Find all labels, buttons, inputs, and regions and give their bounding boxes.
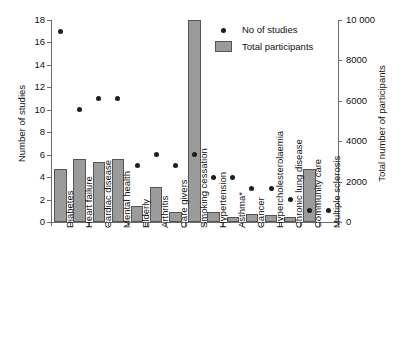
- data-point: [211, 175, 216, 180]
- data-point: [230, 175, 235, 180]
- x-axis-tick-label: Cancer: [256, 197, 266, 228]
- y-axis-right-tick-label: 2000: [346, 177, 367, 187]
- data-point: [135, 163, 140, 168]
- y-axis-right-tick: [338, 101, 342, 102]
- legend-label: Total participants: [242, 41, 313, 52]
- y-axis-right-tick-label: 4000: [346, 136, 367, 146]
- y-axis-right-tick-label: 8000: [346, 55, 367, 65]
- y-axis-left-tick: [47, 155, 51, 156]
- chart-figure: Number of studies Total number of partic…: [0, 0, 402, 351]
- y-axis-right-tick-label: 6000: [346, 96, 367, 106]
- data-point: [58, 29, 63, 34]
- x-axis-tick-label: Elderly: [141, 199, 151, 228]
- x-axis-tick-label: Hypercholesterolaemia: [275, 131, 285, 228]
- y-axis-left-tick-label: 8: [40, 127, 45, 137]
- y-axis-left-tick-label: 16: [34, 37, 45, 47]
- y-axis-left-tick: [47, 177, 51, 178]
- y-axis-right-tick: [338, 20, 342, 21]
- x-axis-tick-label: Hypertension: [218, 172, 228, 228]
- y-axis-left-tick: [47, 110, 51, 111]
- legend-label: No of studies: [242, 24, 297, 35]
- y-axis-left-tick-label: 4: [40, 172, 45, 182]
- y-axis-right-tick: [338, 60, 342, 61]
- legend-dot-icon: [221, 28, 226, 33]
- x-axis-tick-label: Cardiac disease: [103, 160, 113, 228]
- x-axis-tick-label: Smoking cessation: [199, 148, 209, 228]
- data-point: [154, 152, 159, 157]
- data-point: [249, 186, 254, 191]
- y-axis-right-tick-label: 10 000: [346, 15, 375, 25]
- y-axis-left-tick: [47, 42, 51, 43]
- x-axis-tick-label: Care givers: [179, 179, 189, 228]
- y-axis-left-tick: [47, 200, 51, 201]
- x-axis-tick-label: Arthritis: [160, 196, 170, 228]
- x-axis-tick: [51, 222, 52, 226]
- data-point: [288, 197, 293, 202]
- y-axis-left-tick: [47, 20, 51, 21]
- x-axis-tick-label: Diabetes: [65, 191, 75, 229]
- x-axis-tick-label: Heart failure: [84, 176, 94, 228]
- data-point: [115, 96, 120, 101]
- y-axis-left-tick-label: 0: [40, 217, 45, 227]
- y-axis-right-tick-label: 0: [346, 217, 351, 227]
- y-axis-left-tick-label: 18: [34, 15, 45, 25]
- y-axis-left-tick: [47, 65, 51, 66]
- data-point: [77, 107, 82, 112]
- y-axis-left-tick: [47, 87, 51, 88]
- data-point: [173, 163, 178, 168]
- y-axis-left-title: Number of studies: [16, 59, 27, 189]
- y-axis-right-title: Total number of participants: [376, 59, 387, 189]
- y-axis-left-tick-label: 2: [40, 195, 45, 205]
- data-point: [269, 186, 274, 191]
- y-axis-left-tick-label: 6: [40, 150, 45, 160]
- legend-swatch-icon: [215, 41, 232, 52]
- x-axis-tick-label: Community care: [313, 159, 323, 228]
- x-axis-tick-label: Chronic lung disease: [294, 139, 304, 228]
- y-axis-left-tick-label: 10: [34, 105, 45, 115]
- x-axis-tick-label: Multiple sclerosis: [332, 156, 342, 228]
- y-axis-left-tick-label: 14: [34, 60, 45, 70]
- y-axis-left-tick: [47, 132, 51, 133]
- y-axis-left-tick-label: 12: [34, 82, 45, 92]
- data-point: [96, 96, 101, 101]
- x-axis-tick-label: Mental health: [122, 171, 132, 228]
- y-axis-right-tick: [338, 141, 342, 142]
- x-axis-tick-label: Asthma*: [237, 192, 247, 228]
